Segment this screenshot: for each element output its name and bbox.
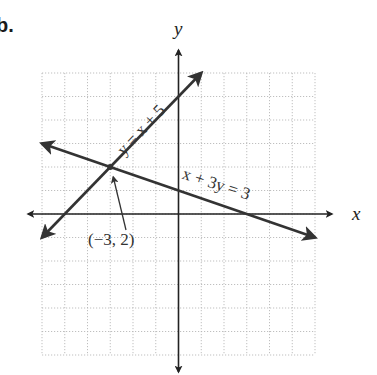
intersection-point xyxy=(107,164,113,170)
pointer-arrow xyxy=(113,177,126,230)
coordinate-graph xyxy=(0,0,377,375)
y-axis-label: y xyxy=(174,18,182,40)
x-axis-label: x xyxy=(352,203,360,225)
intersection-label: (−3, 2) xyxy=(88,230,134,250)
axes xyxy=(28,50,332,372)
